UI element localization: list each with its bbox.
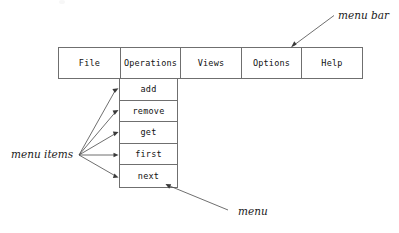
menu-bar-item-views[interactable]: Views <box>181 48 242 78</box>
scan-artifact <box>59 0 65 4</box>
annotation-label-menu-bar: menu bar <box>338 9 389 21</box>
menu-bar-item-options[interactable]: Options <box>242 48 302 78</box>
annotation-label-menu: menu <box>238 205 268 217</box>
annotation-arrows <box>0 0 399 233</box>
operations-dropdown-menu: add remove get first next <box>119 79 178 188</box>
arrow-menu-items-get <box>79 132 119 155</box>
arrow-menu-bar <box>291 16 334 48</box>
arrow-menu-items-first <box>79 153 119 158</box>
arrow-menu-items-next <box>79 155 119 178</box>
menu-bar: File Operations Views Options Help <box>58 47 363 79</box>
menu-item-get[interactable]: get <box>120 122 177 144</box>
menu-item-add[interactable]: add <box>120 79 177 101</box>
arrow-menu-items-remove <box>79 110 119 155</box>
diagram-canvas: File Operations Views Options Help add r… <box>0 0 399 233</box>
menu-item-remove[interactable]: remove <box>120 101 177 123</box>
arrow-menu-items-add <box>79 88 119 155</box>
menu-bar-item-operations[interactable]: Operations <box>121 48 181 78</box>
menu-bar-item-file[interactable]: File <box>59 48 121 78</box>
menu-bar-item-help[interactable]: Help <box>302 48 362 78</box>
annotation-label-menu-items: menu items <box>11 148 73 160</box>
menu-item-next[interactable]: next <box>120 165 177 187</box>
menu-item-first[interactable]: first <box>120 144 177 166</box>
